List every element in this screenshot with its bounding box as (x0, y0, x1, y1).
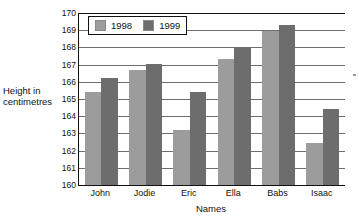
bar-group-ella (218, 13, 251, 185)
y-tick-label: 162 (56, 146, 76, 155)
x-label-john: John (78, 188, 122, 199)
bar-john-1999 (101, 78, 118, 185)
gridline (79, 65, 345, 66)
y-tick-label: 164 (56, 112, 76, 121)
y-tick-label: 165 (56, 95, 76, 104)
series-1999-swatch-icon (143, 20, 154, 31)
gridline (79, 82, 345, 83)
legend-entry-1998: 1998 (95, 20, 132, 31)
bar-group-babs (262, 13, 295, 185)
y-axis-tick-labels: 160161162163164165166167168169170 (56, 13, 76, 185)
gridline (79, 47, 345, 48)
gridline (79, 151, 345, 152)
x-label-eric: Eric (167, 188, 211, 199)
x-label-ella: Ella (211, 188, 255, 199)
bar-jodie-1998 (129, 70, 146, 185)
bar-group-jodie (129, 13, 162, 185)
y-tick-label: 166 (56, 78, 76, 87)
x-axis-title: Names (78, 203, 344, 214)
bar-group-john (85, 13, 118, 185)
bar-ella-1999 (234, 47, 251, 185)
y-tick-label: 161 (56, 164, 76, 173)
gridline (79, 116, 345, 117)
y-tick-label: 167 (56, 60, 76, 69)
y-tick-label: 163 (56, 129, 76, 138)
right-edge-mark (353, 74, 356, 76)
bar-jodie-1999 (146, 64, 163, 185)
plot-area (78, 13, 345, 186)
legend-entry-1999: 1999 (143, 20, 180, 31)
bar-eric-1999 (190, 92, 207, 185)
y-axis-title-line-2: centimetres (3, 96, 61, 107)
legend: 1998 1999 (88, 16, 187, 35)
bar-babs-1999 (279, 25, 296, 185)
y-tick-label: 160 (56, 181, 76, 190)
y-tick-label: 170 (56, 9, 76, 18)
bar-ella-1998 (218, 59, 235, 185)
gridline (79, 168, 345, 169)
legend-label-1998: 1998 (111, 21, 132, 31)
bar-isaac-1999 (323, 109, 340, 185)
bar-group-eric (173, 13, 206, 185)
y-tick-label: 169 (56, 26, 76, 35)
bar-group-isaac (306, 13, 339, 185)
bar-eric-1998 (173, 130, 190, 185)
bar-john-1998 (85, 92, 102, 185)
legend-label-1999: 1999 (159, 21, 180, 31)
bar-chart: Height in centimetres 160161162163164165… (0, 0, 359, 223)
x-axis-category-labels: JohnJodieEricEllaBabsIsaac (78, 188, 344, 201)
gridline (79, 13, 345, 14)
x-label-isaac: Isaac (300, 188, 344, 199)
x-label-jodie: Jodie (122, 188, 166, 199)
bar-isaac-1998 (306, 143, 323, 185)
y-axis-title: Height in centimetres (3, 85, 61, 107)
y-axis-title-line-1: Height in (3, 85, 61, 96)
gridline (79, 133, 345, 134)
series-1998-swatch-icon (95, 20, 106, 31)
plot-inner (79, 13, 345, 185)
y-tick-label: 168 (56, 43, 76, 52)
gridline (79, 99, 345, 100)
x-label-babs: Babs (255, 188, 299, 199)
bar-babs-1998 (262, 31, 279, 185)
